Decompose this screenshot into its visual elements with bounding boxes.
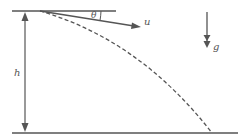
gravity-arrow (204, 12, 211, 48)
height-arrow (22, 12, 29, 132)
angle-label: θ (91, 10, 97, 20)
velocity-label: u (144, 16, 150, 27)
angle-arc (100, 11, 101, 21)
projectile-diagram: h u θ g (0, 0, 245, 138)
height-label: h (14, 67, 20, 78)
trajectory-dashed-curve (40, 11, 212, 133)
gravity-label: g (213, 41, 219, 52)
